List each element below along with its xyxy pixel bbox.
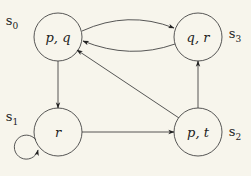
state-s2-name: s2	[229, 124, 241, 142]
state-s3-name-base: s	[229, 26, 236, 41]
edge-s2-to-s0	[77, 50, 179, 118]
state-s2-name-sub: 2	[235, 132, 241, 142]
diagram-canvas	[0, 0, 251, 176]
state-s2-label: p, t	[187, 125, 209, 140]
state-s1-name: s1	[6, 109, 18, 127]
state-s2-name-base: s	[229, 124, 236, 139]
state-s0-label: p, q	[46, 30, 71, 45]
edge-s0-to-s3	[82, 20, 174, 31]
state-s3-name-sub: 3	[235, 34, 241, 44]
state-s1-name-base: s	[6, 109, 13, 124]
state-s0-name: s0	[6, 13, 18, 31]
state-s0-name-sub: 0	[12, 21, 18, 31]
state-s3-label: q, r	[187, 30, 210, 45]
state-s1-name-sub: 1	[12, 117, 18, 127]
kripke-diagram: p, q r p, t q, r s0 s1 s2 s3	[0, 0, 251, 176]
state-s0-name-base: s	[6, 13, 13, 28]
state-s1-label: r	[55, 125, 61, 140]
edge-s1-self-loop	[14, 135, 38, 159]
edge-s3-to-s0	[83, 41, 175, 51]
state-s3-name: s3	[229, 26, 241, 44]
